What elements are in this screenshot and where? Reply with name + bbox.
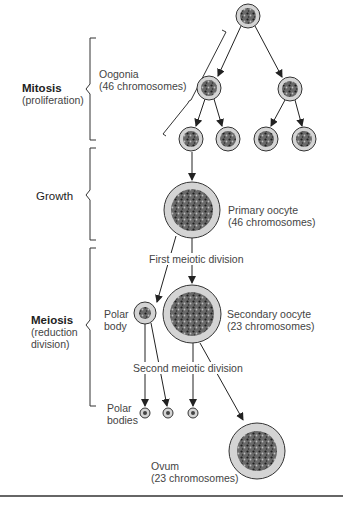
primary-oocyte-name: Primary oocyte (228, 204, 316, 216)
oogonium-cell-l3-4 (292, 127, 316, 151)
polar-bodies-line1: Polar (107, 402, 138, 414)
polar-body-small-2 (163, 408, 173, 418)
primary-oocyte-chromosomes: (46 chromosomes) (228, 216, 316, 228)
stage-mitosis-title: Mitosis (22, 82, 84, 94)
primary-oocyte-cell (164, 182, 220, 238)
oogonium-cell-l3-2 (216, 127, 240, 151)
polar-bodies-line2: bodies (107, 414, 138, 426)
second-meiotic-division-label: Second meiotic division (132, 362, 244, 374)
growth-bracket (86, 148, 96, 240)
secondary-oocyte-chromosomes: (23 chromosomes) (227, 320, 315, 332)
polar-body-cell (134, 302, 156, 324)
primary-oocyte-label: Primary oocyte (46 chromosomes) (228, 204, 316, 228)
stage-growth: Growth (36, 190, 73, 202)
stage-meiosis-subtitle-2: division) (31, 338, 78, 350)
mitosis-bracket (86, 38, 96, 140)
polar-bodies-label: Polar bodies (107, 402, 138, 426)
secondary-oocyte-name: Secondary oocyte (227, 308, 315, 320)
oogonium-cell-l3-3 (254, 127, 278, 151)
oogonium-cell-l3-1 (179, 127, 203, 151)
mitosis-arrows (192, 26, 302, 180)
polar-body-small-1 (140, 408, 150, 418)
stage-meiosis-subtitle-1: (reduction (31, 326, 78, 338)
ovum-label: Ovum (23 chromosomes) (151, 460, 239, 484)
polar-body-small-3 (188, 408, 198, 418)
stage-growth-title: Growth (36, 190, 73, 202)
meiosis-bracket (86, 248, 96, 406)
polar-body-label: Polar body (104, 308, 129, 332)
oogonium-cell-l2-right (278, 77, 302, 101)
stage-mitosis: Mitosis (proliferation) (22, 82, 84, 106)
polar-body-line2: body (104, 320, 129, 332)
oogonia-chromosomes: (46 chromosomes) (99, 80, 187, 92)
ovum-chromosomes: (23 chromosomes) (151, 472, 239, 484)
oogonia-label: Oogonia (46 chromosomes) (99, 68, 187, 92)
secondary-oocyte-label: Secondary oocyte (23 chromosomes) (227, 308, 315, 332)
polar-body-line1: Polar (104, 308, 129, 320)
ovum-name: Ovum (151, 460, 239, 472)
oogonium-cell-l2-left (197, 76, 221, 100)
stage-meiosis-title: Meiosis (31, 314, 78, 326)
oogonium-cell-top (236, 4, 260, 28)
stage-meiosis: Meiosis (reduction division) (31, 314, 78, 350)
stage-mitosis-subtitle: (proliferation) (22, 94, 84, 106)
oogonia-name: Oogonia (99, 68, 187, 80)
secondary-oocyte-cell (163, 285, 221, 343)
first-meiotic-division-label: First meiotic division (148, 253, 245, 265)
